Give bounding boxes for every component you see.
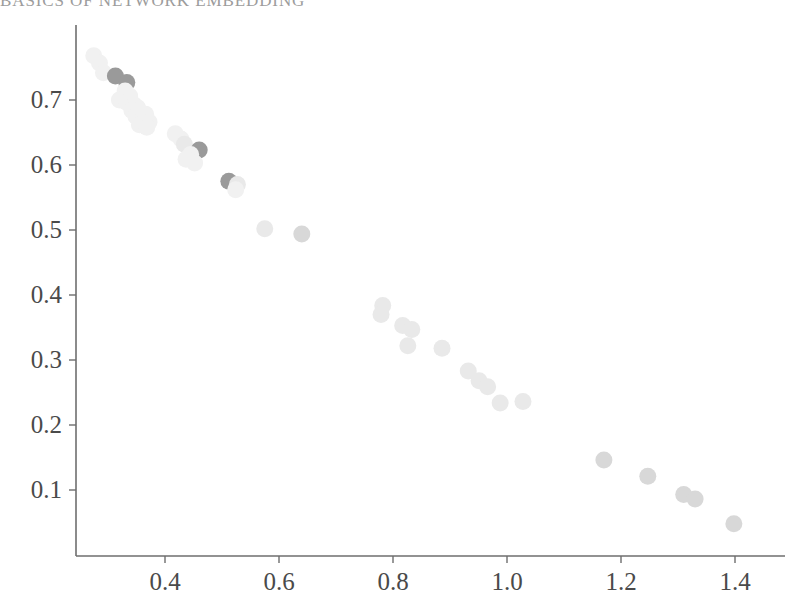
- y-tick-label: 0.7: [31, 86, 62, 114]
- scatter-point: [687, 491, 704, 508]
- x-tick-label: 1.0: [491, 568, 522, 596]
- scatter-point: [138, 119, 155, 136]
- scatter-point: [725, 515, 742, 532]
- scatter-point: [403, 321, 420, 338]
- y-tick-label: 0.2: [31, 411, 62, 439]
- axis-spines: [76, 25, 785, 556]
- x-tick-label: 1.4: [719, 568, 750, 596]
- y-tick-label: 0.6: [31, 151, 62, 179]
- scatter-point: [293, 225, 310, 242]
- scatter-point: [434, 340, 451, 357]
- y-tick-label: 0.4: [31, 281, 62, 309]
- scatter-plot-figure: 0.70.60.50.40.30.20.10.40.60.81.01.21.4: [0, 0, 785, 616]
- y-tick-label: 0.5: [31, 216, 62, 244]
- data-point-layer: [85, 47, 742, 532]
- scatter-point: [514, 393, 531, 410]
- x-tick-label: 0.4: [149, 568, 180, 596]
- scatter-point: [399, 337, 416, 354]
- scatter-point: [595, 452, 612, 469]
- y-tick-label: 0.3: [31, 346, 62, 374]
- x-tick-label: 0.8: [377, 568, 408, 596]
- scatter-point: [492, 394, 509, 411]
- scatter-point: [227, 181, 244, 198]
- scatter-point: [479, 378, 496, 395]
- scatter-point: [256, 220, 273, 237]
- scatter-point: [373, 306, 390, 323]
- plot-canvas: [0, 0, 785, 616]
- x-tick-label: 1.2: [605, 568, 636, 596]
- scatter-point: [186, 155, 203, 172]
- x-tick-label: 0.6: [263, 568, 294, 596]
- scatter-point: [639, 468, 656, 485]
- y-tick-label: 0.1: [31, 476, 62, 504]
